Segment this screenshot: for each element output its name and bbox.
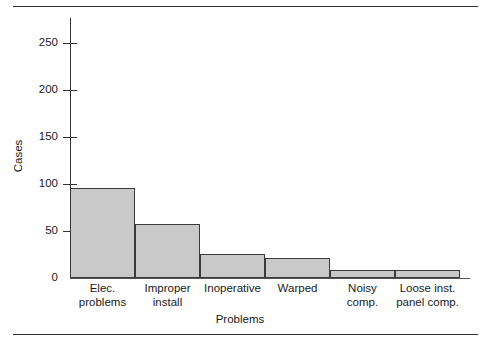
y-axis-title: Cases xyxy=(12,126,24,186)
bar-inoperative[interactable] xyxy=(200,254,265,278)
y-tick-label: 250 xyxy=(18,37,58,49)
y-tick-mark xyxy=(63,184,77,185)
x-tick-label: Loose inst.panel comp. xyxy=(383,282,472,309)
bar-chart: 250 200 150 100 50 0 Elec.problems Impro… xyxy=(0,0,490,345)
bar-loose-inst-panel[interactable] xyxy=(395,270,460,278)
y-tick-label: 0 xyxy=(18,272,58,284)
bar-noisy-comp[interactable] xyxy=(330,270,395,278)
y-tick-mark xyxy=(63,43,77,44)
y-tick-label: 150 xyxy=(18,131,58,143)
y-tick-mark xyxy=(63,90,77,91)
bar-elec-problems[interactable] xyxy=(70,188,135,278)
bar-warped[interactable] xyxy=(265,258,330,278)
y-tick-label: 200 xyxy=(18,84,58,96)
y-tick-label: 50 xyxy=(18,225,58,237)
y-tick-label: 100 xyxy=(18,178,58,190)
x-axis-title-text: Problems xyxy=(216,313,265,325)
x-axis-line xyxy=(70,278,470,279)
bar-improper-install[interactable] xyxy=(135,224,200,278)
y-tick-mark xyxy=(63,137,77,138)
x-axis-title: Problems xyxy=(0,313,490,325)
